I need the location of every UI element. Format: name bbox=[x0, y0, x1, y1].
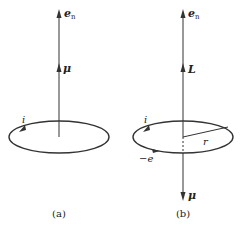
current-label-a: i bbox=[22, 114, 25, 125]
caption-a: (a) bbox=[52, 208, 66, 219]
panel-b: en L i −e r μ (b) bbox=[133, 7, 233, 219]
mu-label-a: μ bbox=[63, 62, 71, 75]
L-arrowhead-icon-b bbox=[181, 63, 186, 72]
diagram-canvas: en μ i (a) en L i −e r μ (b) bbox=[0, 0, 242, 229]
en-label-b: en bbox=[188, 7, 200, 21]
mu-arrowhead-icon-a bbox=[57, 63, 62, 72]
en-arrowhead-icon-b bbox=[181, 9, 186, 18]
charge-label-b: −e bbox=[139, 153, 153, 164]
panel-a: en μ i (a) bbox=[9, 7, 109, 219]
mu-down-arrowhead-icon-b bbox=[181, 192, 186, 201]
en-arrowhead-icon-a bbox=[57, 9, 62, 18]
caption-b: (b) bbox=[176, 208, 190, 219]
L-label-b: L bbox=[187, 63, 196, 76]
current-label-b: i bbox=[144, 114, 147, 125]
en-label-a: en bbox=[64, 7, 76, 21]
radius-label-b: r bbox=[203, 136, 209, 147]
mu-label-b: μ bbox=[188, 189, 196, 202]
